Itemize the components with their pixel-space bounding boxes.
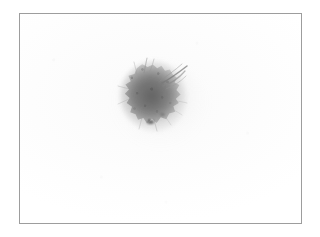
screenshot-root (0, 0, 320, 237)
dark-blot (120, 61, 186, 131)
blot-dark-speck (147, 120, 154, 124)
blot-dark-speck-secondary (160, 113, 165, 116)
specimen-plate (19, 13, 302, 224)
